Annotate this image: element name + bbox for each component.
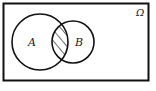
set-a-label: A (27, 36, 36, 49)
universe-label: Ω (135, 7, 144, 18)
venn-diagram: A B Ω (0, 0, 156, 91)
set-b-label: B (74, 36, 83, 49)
